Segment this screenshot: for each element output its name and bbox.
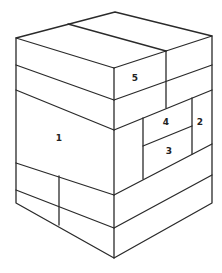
label-1: 1 (56, 133, 62, 143)
left-row-line-4 (16, 190, 114, 228)
top-right-step-edge (166, 36, 212, 51)
cube-drawing: 1 2 3 4 5 (0, 0, 222, 273)
right-row-line-1 (114, 65, 212, 100)
block-stack-diagram: 1 2 3 4 5 (0, 0, 222, 273)
label-3: 3 (166, 146, 172, 156)
left-row-line-2 (16, 90, 114, 130)
block-3-4-divider (143, 126, 192, 146)
top-divider-line (68, 24, 166, 51)
top-front-right-edge (114, 51, 166, 68)
label-5: 5 (132, 73, 138, 83)
left-row-line-1 (16, 65, 114, 100)
left-row-line-3 (16, 163, 114, 195)
top-front-left-edge (16, 38, 114, 68)
label-2: 2 (197, 117, 203, 127)
right-row-line-3 (114, 144, 212, 195)
label-4: 4 (163, 117, 169, 127)
right-row-line-4 (114, 175, 212, 228)
